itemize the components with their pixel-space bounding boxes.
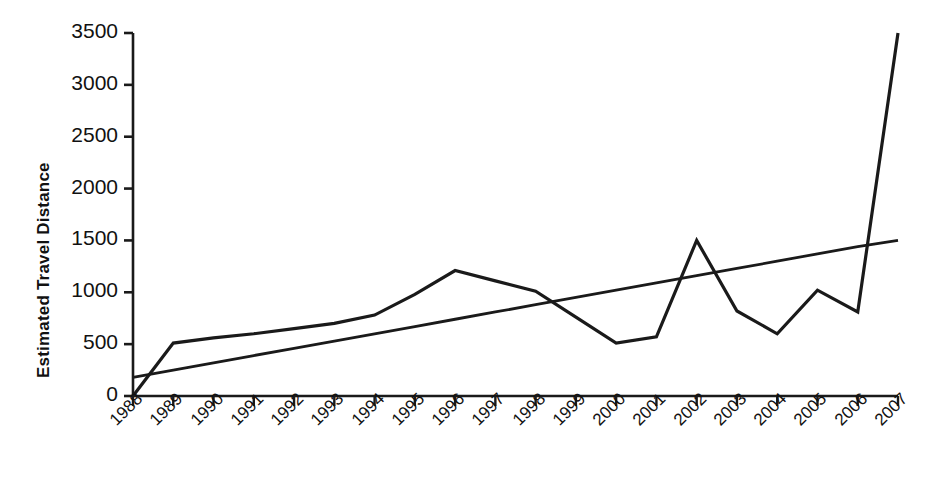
- y-axis-tick-label: 0: [106, 382, 118, 406]
- chart-root: Estimated Travel Distance 05001000150020…: [0, 0, 932, 483]
- y-axis-ticks: [124, 33, 133, 396]
- axis-lines: [133, 33, 898, 396]
- data-line-series: [133, 33, 898, 396]
- y-axis-tick-label: 500: [83, 330, 118, 354]
- y-axis-tick-label: 3500: [71, 19, 118, 43]
- y-axis-tick-label: 2500: [71, 123, 118, 147]
- y-axis-tick-label: 1500: [71, 226, 118, 250]
- y-axis-tick-label: 2000: [71, 175, 118, 199]
- y-axis-tick-label: 3000: [71, 71, 118, 95]
- trend-line-series: [133, 240, 898, 377]
- y-axis-tick-label: 1000: [71, 278, 118, 302]
- plot-area: [0, 0, 932, 483]
